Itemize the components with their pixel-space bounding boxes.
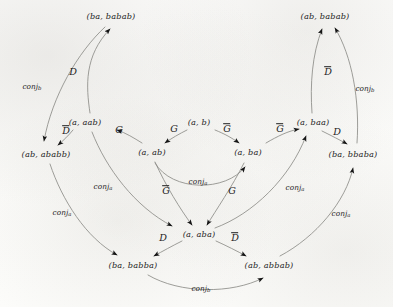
edge-label-G-ba-aba: G bbox=[228, 186, 236, 196]
node-a-b: (a, b) bbox=[188, 118, 211, 126]
edge-label-conj-a-ab-ba: conja bbox=[189, 178, 208, 187]
node-ba-babab: (ba, babab) bbox=[87, 12, 136, 20]
node-a-baa: (a, baa) bbox=[297, 118, 330, 126]
edge-label-conj-a-aab-aba: conja bbox=[94, 183, 113, 192]
edge-label-conj-a-ababb-babba: conja bbox=[53, 209, 72, 218]
edge-label-conj-b-right: conjb bbox=[355, 85, 374, 94]
edge-label-conj-a-abbab-bbaba: conja bbox=[332, 210, 351, 219]
edge-Gbar-ab-to-aba bbox=[155, 162, 192, 225]
edge-label-conj-a-aba-baa: conja bbox=[286, 184, 305, 193]
edge-D-aba-to-babba bbox=[154, 241, 182, 256]
edge-label-Gbar-ab-aba: G bbox=[162, 186, 170, 196]
edge-label-conj-b-bottom: conjb bbox=[191, 285, 210, 294]
edge-label-conj-b-left: conjb bbox=[22, 83, 41, 92]
edge-label-G-ab-aab: G bbox=[115, 125, 123, 135]
edge-label-Dbar-baa-babab: D bbox=[324, 67, 332, 77]
edge-label-D-aab-babab: D bbox=[69, 67, 77, 77]
node-ba-bbaba: (ba, bbaba) bbox=[329, 150, 378, 158]
edge-label-D-baa-bbaba: D bbox=[333, 127, 341, 137]
node-ab-babab: (ab, babab) bbox=[301, 12, 350, 20]
edge-label-Gbar-b-ba: G bbox=[223, 124, 231, 134]
edge-label-Dbar-aba-abbab: D bbox=[231, 233, 239, 243]
node-ab-abbab: (ab, abbab) bbox=[245, 261, 294, 269]
edge-label-D-aba-babba: D bbox=[159, 233, 167, 243]
node-ba-babba: (ba, babba) bbox=[109, 261, 158, 269]
node-a-aab: (a, aab) bbox=[69, 118, 102, 126]
diagram-canvas: (ba, babab) (ab, babab) (a, aab) (a, baa… bbox=[0, 0, 393, 307]
edge-Dbar-baa-to-babab bbox=[311, 29, 322, 113]
edge-Dbar-aba-to-abbab bbox=[216, 241, 246, 256]
node-a-ba: (a, ba) bbox=[234, 148, 262, 156]
node-a-ab: (a, ab) bbox=[138, 148, 166, 156]
node-a-aba: (a, aba) bbox=[183, 230, 216, 238]
edge-label-G-b-ab: G bbox=[170, 124, 178, 134]
edge-label-Dbar-aab-ababb: D bbox=[62, 126, 70, 136]
edge-label-Gbar-ba-baa: G bbox=[276, 124, 284, 134]
node-ab-ababb: (ab, ababb) bbox=[22, 150, 71, 158]
edge-G-ba-to-aba bbox=[207, 163, 244, 225]
